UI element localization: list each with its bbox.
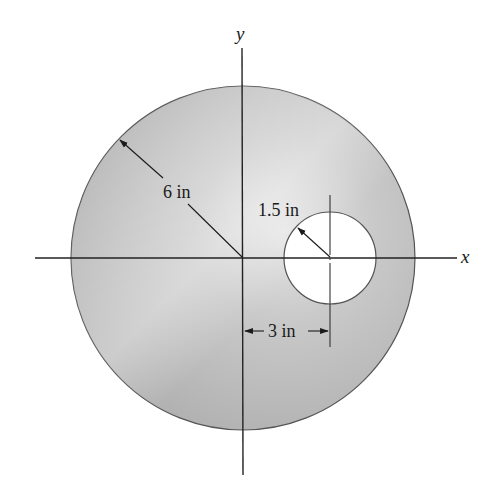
- y-axis-label: y: [234, 23, 245, 44]
- offset-dim-label: 3 in: [268, 321, 296, 341]
- x-axis-label: x: [460, 246, 470, 267]
- outer-radius-label: 6 in: [163, 182, 191, 202]
- hole-radius-label: 1.5 in: [258, 200, 299, 220]
- composite-area-diagram: 6 in 1.5 in 3 in y x: [0, 0, 498, 499]
